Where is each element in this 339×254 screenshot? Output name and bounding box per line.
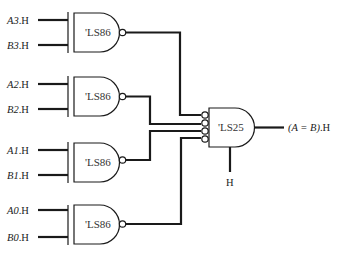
inversion-bubble-4	[202, 136, 208, 142]
enable-label: H	[226, 177, 234, 188]
input-label-a2: A2.H	[6, 79, 29, 90]
input-label-b0: B0.H	[7, 232, 29, 243]
input-label-b1: B1.H	[7, 170, 29, 181]
xor-gate-1: 'LS86 A1.H B1.H	[6, 142, 126, 183]
wire-gate2-to-ls25	[126, 97, 201, 125]
input-label-a1: A1.H	[6, 145, 29, 156]
inversion-bubble-3	[202, 128, 208, 134]
input-label-a0: A0.H	[6, 205, 29, 216]
input-label-a3: A3.H	[6, 15, 29, 26]
xor-gate-2: 'LS86 A2.H B2.H	[6, 76, 126, 117]
logic-diagram: 'LS86 A3.H B3.H 'LS86 A2.H B2.H 'LS86 A1…	[0, 0, 339, 254]
inversion-bubble-1	[202, 112, 208, 118]
inversion-bubble	[119, 221, 125, 227]
xor-gate-3: 'LS86 A3.H B3.H	[6, 12, 126, 53]
wire-gate3-to-ls25	[126, 33, 201, 116]
gate-part-label: 'LS86	[85, 90, 111, 102]
output-label: (A = B).H	[288, 122, 331, 134]
xor-gate-0: 'LS86 A0.H B0.H	[6, 205, 126, 245]
inversion-bubble-2	[202, 120, 208, 126]
nor-gate-ls25: 'LS25 H (A = B).H	[202, 108, 331, 188]
gate-part-label: 'LS25	[218, 121, 244, 133]
input-label-b3: B3.H	[7, 40, 29, 51]
gate-part-label: 'LS86	[85, 26, 111, 38]
wire-gate1-to-ls25	[126, 131, 201, 160]
inversion-bubble	[119, 93, 125, 99]
inversion-bubble	[119, 157, 125, 163]
inversion-bubble	[119, 29, 125, 35]
gate-part-label: 'LS86	[85, 156, 111, 168]
wire-gate0-to-ls25	[126, 138, 201, 224]
gate-part-label: 'LS86	[85, 218, 111, 230]
input-label-b2: B2.H	[7, 104, 29, 115]
